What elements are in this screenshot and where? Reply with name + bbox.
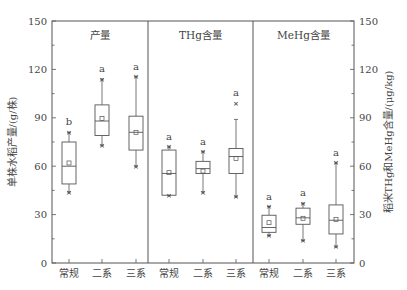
iqr-box: [62, 142, 76, 184]
panel-thg: THg含量常规××a二系××a三系××a: [159, 29, 246, 279]
right-axis-label: 稻米THg和MeHg含量/(μg/kg): [382, 70, 394, 213]
x-tick-label: 二系: [193, 268, 213, 279]
x-tick-label: 三系: [226, 268, 246, 279]
right-tick-label: 150: [359, 16, 378, 27]
box-0: 常规××b: [59, 116, 79, 279]
significance-letter: a: [233, 87, 239, 98]
left-axis-label: 单株水稻产量/(g/株): [6, 96, 18, 187]
min-marker-icon: ×: [233, 192, 239, 201]
x-tick-label: 二系: [92, 268, 112, 279]
left-tick-label: 60: [34, 161, 47, 172]
significance-letter: b: [66, 116, 72, 127]
panel-yield: 产量常规××b二系××a三系××a: [59, 29, 146, 279]
significance-letter: a: [166, 131, 172, 142]
box-2: 三系××a: [326, 147, 346, 279]
panel-mehg: MeHg含量常规××a二系××a三系××a: [259, 29, 346, 279]
significance-letter: a: [266, 191, 272, 202]
panel-title: MeHg含量: [277, 29, 331, 41]
max-marker-icon: ×: [99, 75, 105, 84]
max-marker-icon: ×: [66, 128, 72, 137]
significance-letter: a: [99, 63, 105, 74]
box-2: 三系××a: [226, 87, 246, 279]
right-tick-label: 0: [359, 258, 365, 269]
iqr-box: [162, 150, 176, 195]
box-1: 二系××a: [193, 136, 213, 279]
min-marker-icon: ×: [333, 242, 339, 251]
min-marker-icon: ×: [66, 188, 72, 197]
right-tick-label: 30: [359, 209, 372, 220]
x-tick-label: 三系: [326, 268, 346, 279]
max-marker-icon: ×: [133, 72, 139, 81]
box-2: 三系××a: [126, 61, 146, 279]
panels: 产量常规××b二系××a三系××aTHg含量常规××a二系××a三系××aMeH…: [59, 29, 346, 279]
box-0: 常规××a: [159, 131, 179, 279]
significance-letter: a: [133, 61, 139, 72]
min-marker-icon: ×: [266, 231, 272, 240]
panel-title: THg含量: [179, 29, 223, 41]
min-marker-icon: ×: [99, 141, 105, 150]
left-tick-label: 90: [34, 112, 47, 123]
left-tick-label: 120: [28, 64, 47, 75]
iqr-box: [329, 205, 343, 234]
significance-letter: a: [333, 147, 339, 158]
right-tick-label: 90: [359, 112, 372, 123]
max-marker-icon: ×: [233, 99, 239, 108]
left-tick-label: 150: [28, 16, 47, 27]
iqr-box: [262, 215, 276, 232]
iqr-box: [129, 116, 143, 150]
significance-letter: a: [200, 136, 206, 147]
min-marker-icon: ×: [300, 236, 306, 245]
iqr-box: [229, 148, 243, 173]
chart-canvas: 0306090120150 0306090120150 产量常规××b二系××a…: [0, 0, 407, 290]
x-tick-label: 常规: [259, 267, 279, 279]
panel-title: 产量: [90, 29, 111, 41]
box-plot-chart: 0306090120150 0306090120150 产量常规××b二系××a…: [0, 0, 407, 290]
iqr-box: [95, 105, 109, 136]
x-tick-label: 三系: [126, 268, 146, 279]
min-marker-icon: ×: [133, 162, 139, 171]
right-tick-label: 120: [359, 64, 378, 75]
box-1: 二系××a: [92, 63, 112, 279]
x-tick-label: 常规: [59, 267, 79, 279]
box-0: 常规××a: [259, 191, 279, 279]
right-tick-label: 60: [359, 161, 372, 172]
left-tick-label: 0: [41, 258, 47, 269]
box-1: 二系××a: [293, 187, 313, 279]
max-marker-icon: ×: [266, 202, 272, 211]
min-marker-icon: ×: [166, 191, 172, 200]
max-marker-icon: ×: [200, 147, 206, 156]
x-tick-label: 常规: [159, 267, 179, 279]
min-marker-icon: ×: [200, 188, 206, 197]
iqr-box: [196, 161, 210, 173]
significance-letter: a: [300, 187, 306, 198]
left-tick-label: 30: [34, 209, 47, 220]
max-marker-icon: ×: [300, 199, 306, 208]
max-marker-icon: ×: [166, 142, 172, 151]
max-marker-icon: ×: [333, 158, 339, 167]
x-tick-label: 二系: [293, 268, 313, 279]
